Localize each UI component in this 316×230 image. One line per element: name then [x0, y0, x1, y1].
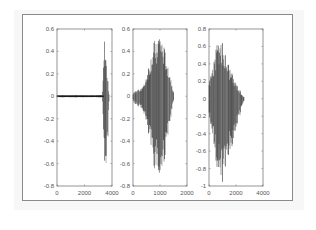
x-tick-label: 1000 [153, 190, 167, 196]
y-tick-label: -0.8 [196, 166, 207, 172]
x-tick-label: 2000 [229, 190, 243, 196]
x-tick-label: 4000 [105, 190, 119, 196]
y-tick-label: -0.2 [44, 116, 55, 122]
y-tick-label: 0.2 [122, 71, 131, 77]
y-tick-label: -0.4 [120, 138, 131, 144]
y-tick-label: -0.4 [196, 131, 207, 137]
subplot-2-x-ticks: 0 1000 2000 [131, 190, 194, 196]
y-tick-label: 0.4 [198, 61, 207, 67]
subplot-2-y-ticks: 0.6 0.4 0.2 0 -0.2 -0.4 -0.6 -0.8 [120, 26, 131, 189]
x-tick-label: 2000 [180, 190, 194, 196]
x-tick-label: 0 [131, 190, 135, 196]
subplot-3: 0.8 0.6 0.4 0.2 0 -0.2 -0.4 -0.6 -0.8 -1… [196, 26, 271, 196]
y-tick-label: -1 [201, 183, 207, 189]
y-tick-label: -0.2 [120, 116, 131, 122]
x-tick-label: 0 [207, 190, 211, 196]
subplot-1: 0.6 0.4 0.2 0 -0.2 -0.4 -0.6 -0.8 0 2000… [44, 26, 120, 196]
subplot-1-x-ticks: 0 2000 4000 [55, 190, 119, 196]
x-tick-label: 4000 [256, 190, 270, 196]
subplot-1-y-ticks: 0.6 0.4 0.2 0 -0.2 -0.4 -0.6 -0.8 [44, 26, 55, 189]
y-tick-label: -0.6 [196, 148, 207, 154]
y-tick-label: -0.2 [196, 113, 207, 119]
y-tick-label: 0.2 [198, 78, 207, 84]
y-tick-label: 0.6 [46, 26, 55, 32]
y-tick-label: 0.4 [46, 48, 55, 54]
y-tick-label: 0.2 [46, 71, 55, 77]
y-tick-label: -0.8 [44, 183, 55, 189]
y-tick-label: 0.8 [198, 26, 207, 32]
subplot-2: 0.6 0.4 0.2 0 -0.2 -0.4 -0.6 -0.8 0 1000… [120, 26, 195, 196]
y-tick-label: -0.6 [120, 161, 131, 167]
subplot-3-y-ticks: 0.8 0.6 0.4 0.2 0 -0.2 -0.4 -0.6 -0.8 -1 [196, 26, 207, 189]
y-tick-label: -0.6 [44, 161, 55, 167]
y-tick-label: 0 [51, 93, 55, 99]
subplot-3-x-ticks: 0 2000 4000 [207, 190, 270, 196]
y-tick-label: 0 [127, 93, 131, 99]
y-tick-label: -0.8 [120, 183, 131, 189]
waveform-figure: 0.6 0.4 0.2 0 -0.2 -0.4 -0.6 -0.8 0 2000… [0, 0, 316, 230]
y-tick-label: 0 [203, 96, 207, 102]
x-tick-label: 0 [55, 190, 59, 196]
y-tick-label: 0.4 [122, 48, 131, 54]
y-tick-label: 0.6 [198, 43, 207, 49]
y-tick-label: -0.4 [44, 138, 55, 144]
y-tick-label: 0.6 [122, 26, 131, 32]
x-tick-label: 2000 [78, 190, 92, 196]
